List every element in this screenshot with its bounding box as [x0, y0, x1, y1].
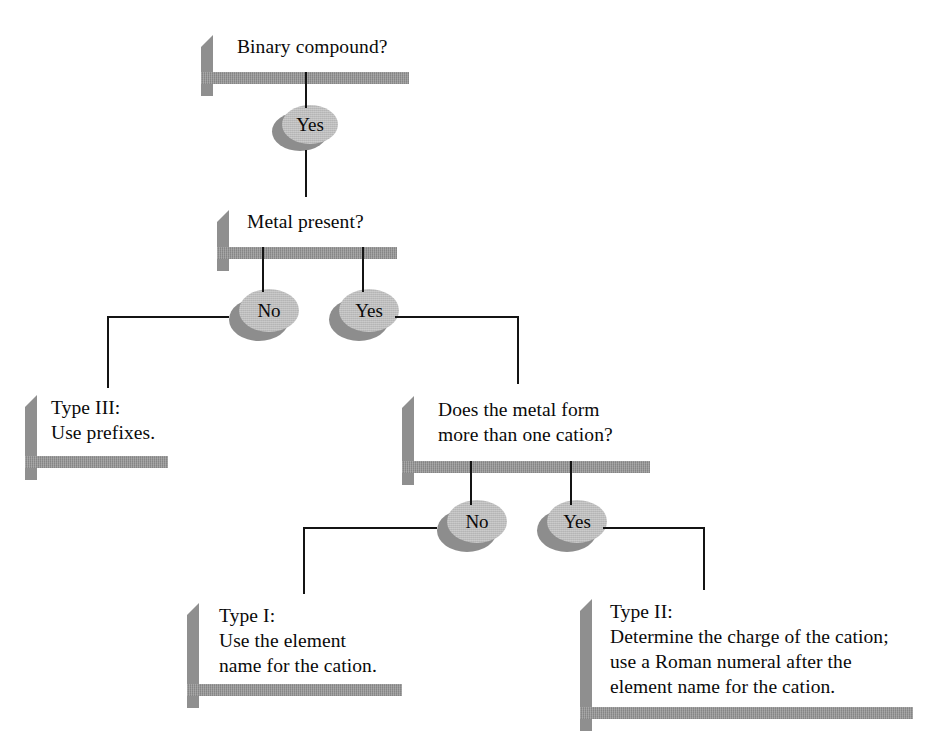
box-bottom-extrusion — [25, 456, 168, 468]
node-metal-cation[interactable]: Does the metal form more than one cation… — [414, 384, 662, 461]
node-binary-compound-label: Binary compound? — [237, 34, 388, 59]
connector-yes1-to-metal — [305, 150, 307, 197]
node-yes-metal[interactable]: Yes — [329, 289, 399, 341]
node-type-iii[interactable]: Type III: Use prefixes. — [37, 383, 180, 456]
node-yes-cation[interactable]: Yes — [537, 500, 607, 552]
node-no-cation-label: No — [447, 511, 507, 533]
connector-no3-horizontal — [303, 527, 437, 529]
connector-metal-to-yes2 — [362, 247, 364, 292]
node-type-ii-label: Type II: Determine the charge of the cat… — [610, 599, 889, 699]
box-bottom-extrusion — [187, 684, 402, 696]
box-bottom-extrusion — [580, 707, 913, 719]
node-no-metal-label: No — [239, 300, 299, 322]
box-bottom-extrusion — [402, 461, 650, 473]
connector-yes3-horizontal — [603, 527, 705, 529]
connector-yes2-vertical — [517, 316, 519, 384]
node-yes-binary-label: Yes — [282, 114, 338, 136]
node-binary-compound[interactable]: Binary compound? — [213, 23, 421, 72]
node-metal-present-label: Metal present? — [247, 209, 364, 234]
connector-no3-vertical — [303, 527, 305, 594]
node-metal-present[interactable]: Metal present? — [229, 198, 409, 247]
node-yes-binary[interactable]: Yes — [272, 105, 338, 151]
node-type-i[interactable]: Type I: Use the element name for the cat… — [199, 591, 414, 684]
box-bottom-extrusion — [217, 247, 397, 259]
connector-metal-to-no2 — [262, 247, 264, 292]
node-yes-cation-label: Yes — [547, 511, 607, 533]
node-type-i-label: Type I: Use the element name for the cat… — [219, 603, 377, 678]
connector-binary-to-yes1 — [305, 72, 307, 108]
box-left-extrusion — [217, 210, 229, 271]
node-no-cation[interactable]: No — [437, 500, 507, 552]
node-type-ii[interactable]: Type II: Determine the charge of the cat… — [592, 587, 925, 707]
node-no-metal[interactable]: No — [229, 289, 299, 341]
node-type-iii-label: Type III: Use prefixes. — [51, 395, 155, 445]
connector-cation-to-yes3 — [570, 461, 572, 505]
box-left-extrusion — [201, 35, 213, 96]
connector-cation-to-no3 — [470, 461, 472, 505]
node-metal-cation-label: Does the metal form more than one cation… — [438, 397, 613, 447]
connector-no2-vertical — [107, 316, 109, 388]
connector-yes3-vertical — [703, 527, 705, 590]
node-yes-metal-label: Yes — [339, 300, 399, 322]
connector-yes2-horizontal — [395, 316, 519, 318]
connector-no2-horizontal — [107, 316, 229, 318]
flowchart-diagram: Binary compound? Yes Metal present? No Y… — [0, 0, 949, 747]
